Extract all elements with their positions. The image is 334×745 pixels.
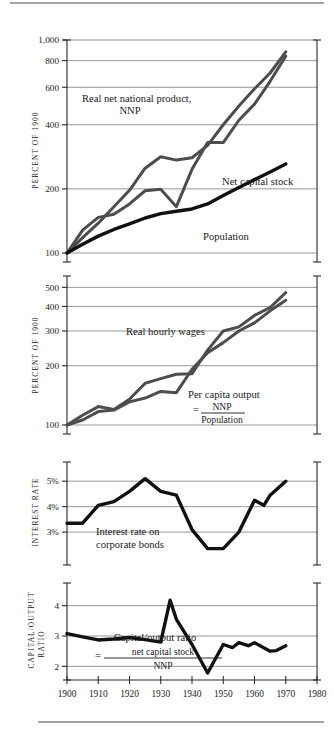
panel-ratio-axis-title-2: RATIO [37, 630, 46, 657]
annotation-interest-line1: Interest rate on [96, 526, 160, 537]
annotation-per-capita-output: Per capita output [188, 389, 260, 400]
panel-growth-ytick-label: 100 [45, 248, 59, 258]
annotation-real-hourly-wages: Real hourly wages [126, 326, 205, 337]
panel-growth-axis-title: PERCENT OF 1900 [31, 111, 40, 188]
x-tick-label: 1920 [120, 689, 139, 699]
panel-growth-ytick-label: 800 [45, 56, 59, 66]
annotation-ratio-denominator: NNP [153, 660, 172, 671]
panel-ratio-axis-title: CAPITAL/OUTPUT [27, 591, 36, 668]
panel-growth-ytick-label: 600 [45, 83, 59, 93]
panel-wages-series-0 [67, 293, 286, 425]
panel-growth-series-1 [67, 52, 286, 253]
annotation-nnp-line1: Real net national product, [82, 93, 191, 104]
panel-interest-ytick-label: 4% [47, 502, 60, 512]
panel-interest-axis-title: INTEREST RATE [31, 477, 40, 546]
x-tick-label: 1930 [151, 689, 170, 699]
panel-wages-axis-title: PERCENT OF 1900 [31, 316, 40, 393]
annotation-ratio-line1: Capital/output ratio [114, 632, 197, 643]
panel-wages-ytick-label: 200 [45, 361, 59, 371]
panel-ratio-ytick-label: 3 [54, 631, 59, 641]
panel-growth-ytick-label: 200 [45, 184, 59, 194]
x-tick-label: 1950 [214, 689, 233, 699]
annotation-interest-line2: corporate bonds [96, 539, 164, 550]
panel-wages-ytick-label: 500 [45, 283, 59, 293]
x-tick-label: 1960 [245, 689, 264, 699]
panel-growth-ytick-label: 1,000 [38, 35, 59, 45]
annotation-population: Population [203, 231, 250, 242]
panel-ratio-ytick-label: 4 [54, 601, 59, 611]
annotation-per-capita-equals: = [193, 404, 199, 415]
panel-wages-ytick-label: 100 [45, 420, 59, 430]
chart-canvas: 1002004006008001,000PERCENT OF 190010020… [0, 0, 334, 745]
x-tick-label: 1970 [276, 689, 295, 699]
panel-wages-ytick-label: 400 [45, 302, 59, 312]
x-tick-label: 1910 [89, 689, 108, 699]
annotation-per-capita-denominator: Population [201, 414, 243, 425]
annotation-net-capital-stock: Net capital stock [222, 176, 294, 187]
annotation-ratio-numerator: net capital stock [132, 646, 195, 657]
panel-growth-ytick-label: 400 [45, 120, 59, 130]
x-tick-label: 1980 [308, 689, 327, 699]
annotation-nnp-line2: NNP [119, 105, 140, 116]
panel-interest-ytick-label: 5% [47, 476, 60, 486]
economic-indicators-figure: 1002004006008001,000PERCENT OF 190010020… [0, 0, 334, 745]
x-tick-label: 1940 [183, 689, 202, 699]
panel-wages-ytick-label: 300 [45, 326, 59, 336]
annotation-per-capita-numerator: NNP [212, 401, 231, 412]
annotation-ratio-equals: = [95, 650, 101, 661]
panel-ratio-ytick-label: 2 [54, 662, 59, 672]
panel-interest-ytick-label: 3% [47, 527, 60, 537]
x-tick-label: 1900 [58, 689, 77, 699]
